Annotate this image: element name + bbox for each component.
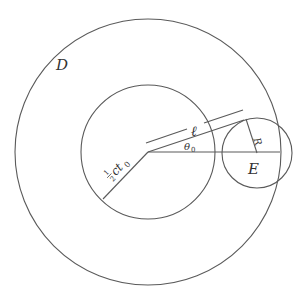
svg-text:0: 0 bbox=[191, 146, 195, 154]
svg-text:θ: θ bbox=[184, 141, 190, 152]
diagram-canvas: D E R ℓ θ 0 1 2 ct 0 bbox=[0, 0, 308, 305]
length-marker-right bbox=[204, 110, 243, 123]
label-ell: ℓ bbox=[191, 123, 197, 139]
radius-r-line bbox=[246, 119, 257, 153]
label-d: D bbox=[55, 56, 68, 74]
svg-text:0: 0 bbox=[123, 160, 133, 170]
label-e: E bbox=[247, 160, 259, 178]
label-r: R bbox=[251, 135, 264, 147]
label-half-ct0: 1 2 ct 0 bbox=[101, 154, 132, 185]
